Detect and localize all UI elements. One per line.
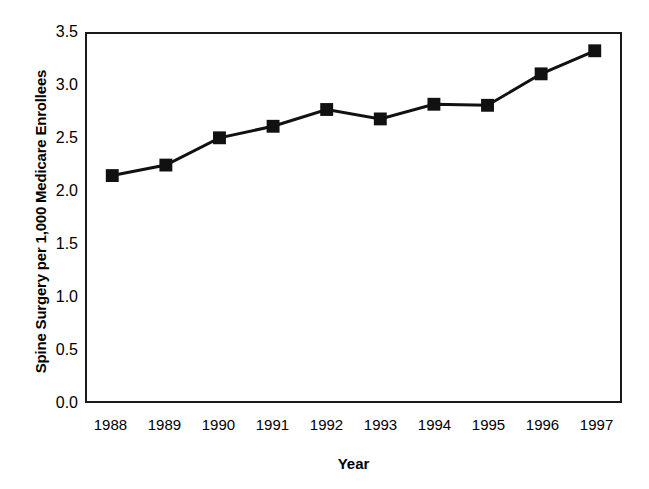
y-tick-label: 2.5 <box>38 130 78 146</box>
x-tick-label: 1995 <box>459 416 519 434</box>
data-point-marker <box>535 67 548 80</box>
data-point-marker <box>320 103 333 116</box>
data-point-marker <box>106 169 119 182</box>
y-tick-label: 0.0 <box>38 395 78 411</box>
x-tick-label: 1996 <box>513 416 573 434</box>
data-point-marker <box>588 44 601 57</box>
x-tick-label: 1992 <box>296 416 356 434</box>
y-tick-label: 1.5 <box>38 236 78 252</box>
data-point-marker <box>267 120 280 133</box>
x-tick-label: 1997 <box>567 416 627 434</box>
y-tick-label: 1.0 <box>38 289 78 305</box>
series-line <box>112 51 594 176</box>
x-tick-label: 1994 <box>405 416 465 434</box>
x-tick-label: 1990 <box>188 416 248 434</box>
chart-figure: Spine Surgery per 1,000 Medicare Enrolle… <box>0 0 649 489</box>
line-series-svg <box>87 34 620 401</box>
plot-area <box>85 32 622 403</box>
y-tick-label: 0.5 <box>38 342 78 358</box>
x-tick-label: 1989 <box>134 416 194 434</box>
x-tick-label: 1988 <box>80 416 140 434</box>
y-tick-label: 3.5 <box>38 24 78 40</box>
data-point-marker <box>159 159 172 172</box>
data-point-marker <box>374 113 387 126</box>
y-tick-label: 2.0 <box>38 183 78 199</box>
y-tick-label: 3.0 <box>38 77 78 93</box>
x-tick-label: 1993 <box>351 416 411 434</box>
data-point-marker <box>427 98 440 111</box>
x-axis-title: Year <box>85 455 622 472</box>
x-tick-label: 1991 <box>242 416 302 434</box>
x-axis-tick-labels: 1988198919901991199219931994199519961997 <box>85 416 622 438</box>
data-point-marker <box>481 99 494 112</box>
y-axis-tick-labels: 0.00.51.01.52.02.53.03.5 <box>36 0 78 489</box>
data-point-marker <box>213 131 226 144</box>
